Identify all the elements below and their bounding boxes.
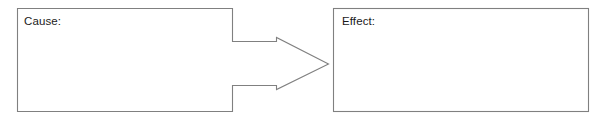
cause-box-with-arrow-shape[interactable] <box>18 9 329 112</box>
diagram-shapes <box>0 0 603 118</box>
cause-effect-diagram: Cause: Effect: <box>0 0 603 118</box>
effect-label: Effect: <box>342 15 375 28</box>
cause-label: Cause: <box>24 15 61 28</box>
